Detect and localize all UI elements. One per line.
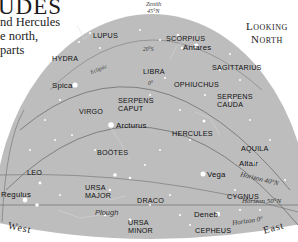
constellation-draco: DRACO (137, 197, 164, 205)
constellation-libra: LIBRA (143, 68, 165, 76)
constellation-hercules: HERCULES (172, 130, 213, 138)
intro-line: parts (0, 43, 24, 57)
constellation-leo: LEO (27, 169, 42, 177)
constellation-ophiuchus: OPHIUCHUS (174, 81, 219, 89)
zenith-latitude-label: 45°N (147, 8, 159, 14)
star-spica: Spica (52, 82, 73, 90)
star-regulus: Regulus (1, 191, 31, 199)
constellation-aquila: AQUILA (241, 145, 269, 153)
intro-line: nd Hercules (0, 15, 60, 29)
label-line: MAJOR (85, 192, 111, 200)
label-line: CAUDA (217, 101, 253, 109)
constellation-cygnus: CYGNUS (227, 193, 259, 201)
intro-text: nd Hercules e north, parts (0, 15, 60, 57)
star-arcturus: Arcturus (116, 122, 147, 130)
star-antares: Antares (183, 44, 211, 52)
constellation-ursa-minor: URSAMINOR (128, 219, 153, 235)
constellation-sagittarius: SAGITTARIUS (212, 64, 262, 72)
label-line: CAPUT (118, 105, 154, 113)
asterism-plough: Plough (95, 208, 118, 217)
constellation-hydra: HYDRA (52, 55, 78, 63)
zenith-label: Zenith (146, 1, 161, 7)
intro-line: e north, (0, 29, 38, 43)
looking-label-line: North (246, 33, 288, 46)
label-line: MINOR (128, 227, 153, 235)
constellation-lupus: LUPUS (93, 32, 118, 40)
star-chart: UDES nd Hercules e north, parts LookingN… (0, 0, 298, 242)
constellation-bootes: BOÖTES (97, 149, 128, 157)
constellation-serpens-caput: SERPENSCAPUT (118, 97, 154, 113)
constellation-cepheus: CEPHEUS (195, 227, 231, 235)
twenty-degree-label: 20°S (143, 46, 153, 52)
constellation-scorpius: SCORPIUS (166, 35, 205, 43)
constellation-virgo: VIRGO (79, 108, 103, 116)
star-vega: Vega (207, 171, 226, 179)
looking-label-line: Looking (246, 20, 288, 33)
star-altair: Altair (239, 160, 258, 168)
star-deneb: Deneb (194, 211, 218, 219)
constellation-serpens-cauda: SERPENSCAUDA (217, 93, 253, 109)
constellation-ursa-major: URSAMAJOR (85, 184, 111, 200)
zero-degree-label: 0° (148, 80, 153, 86)
looking-north-label: LookingNorth (246, 20, 288, 46)
